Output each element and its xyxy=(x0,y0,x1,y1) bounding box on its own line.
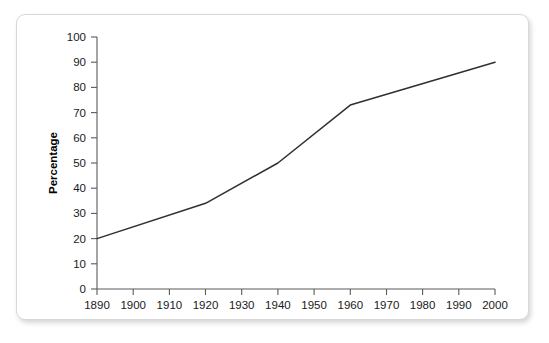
x-tick-label-1980: 1980 xyxy=(410,299,436,311)
y-tick-label-40: 40 xyxy=(73,182,86,194)
y-tick-label-60: 60 xyxy=(73,132,86,144)
x-tick-label-1970: 1970 xyxy=(374,299,400,311)
chart-card: 0 10 20 30 40 50 60 70 80 90 100 xyxy=(16,14,529,320)
x-tick-label-1890: 1890 xyxy=(84,299,110,311)
x-tick-label-1990: 1990 xyxy=(446,299,472,311)
data-series-line xyxy=(97,62,495,238)
x-tick-label-1950: 1950 xyxy=(301,299,327,311)
screenshot-root: 0 10 20 30 40 50 60 70 80 90 100 xyxy=(0,0,549,343)
x-tick-label-1900: 1900 xyxy=(120,299,146,311)
x-axis-ticks xyxy=(97,289,495,295)
x-tick-label-1960: 1960 xyxy=(338,299,364,311)
y-axis-tick-labels: 0 10 20 30 40 50 60 70 80 90 100 xyxy=(67,31,86,295)
x-tick-label-1940: 1940 xyxy=(265,299,291,311)
y-tick-label-20: 20 xyxy=(73,233,86,245)
y-tick-label-50: 50 xyxy=(73,157,86,169)
x-tick-label-1930: 1930 xyxy=(229,299,255,311)
y-tick-label-30: 30 xyxy=(73,207,86,219)
x-tick-label-2000: 2000 xyxy=(482,299,508,311)
x-tick-label-1910: 1910 xyxy=(157,299,183,311)
y-tick-label-80: 80 xyxy=(73,81,86,93)
y-tick-label-100: 100 xyxy=(67,31,86,43)
y-tick-label-0: 0 xyxy=(80,283,86,295)
y-tick-label-70: 70 xyxy=(73,107,86,119)
y-tick-label-90: 90 xyxy=(73,56,86,68)
y-axis-title: Percentage xyxy=(47,132,59,194)
x-axis-tick-labels: 1890 1900 1910 1920 1930 1940 1950 1960 … xyxy=(84,299,508,311)
y-tick-label-10: 10 xyxy=(73,258,86,270)
x-tick-label-1920: 1920 xyxy=(193,299,219,311)
y-axis-ticks xyxy=(91,37,97,289)
line-chart: 0 10 20 30 40 50 60 70 80 90 100 xyxy=(17,15,528,319)
